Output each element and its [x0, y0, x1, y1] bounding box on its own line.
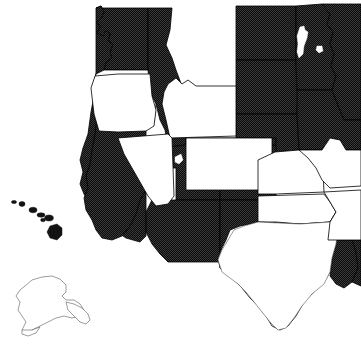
- state-oklahoma[interactable]: [258, 194, 336, 224]
- state-south-dakota[interactable]: [236, 60, 297, 114]
- state-north-dakota[interactable]: [236, 6, 296, 60]
- hawaii-island-bigisland: [47, 224, 62, 240]
- state-montana[interactable]: [162, 78, 236, 138]
- us-states-map-figure: [0, 0, 361, 346]
- hawaii-island-niihau: [11, 200, 16, 203]
- state-arizona[interactable]: [146, 200, 220, 262]
- alaska-inset[interactable]: [16, 276, 90, 336]
- hawaii-island-oahu: [29, 207, 37, 213]
- map-canvas: [0, 0, 361, 346]
- state-oregon-shape[interactable]: [91, 74, 156, 132]
- hawaii-island-kauai: [19, 202, 25, 207]
- state-texas-outline[interactable]: [218, 222, 338, 330]
- hawaii-island-molokai: [37, 213, 45, 217]
- hawaii-inset[interactable]: [11, 200, 62, 240]
- hawaii-island-maui: [45, 215, 54, 221]
